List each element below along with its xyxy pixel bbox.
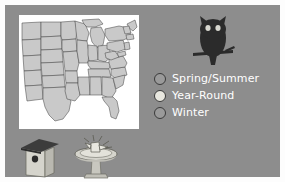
legend-swatch-spring-summer	[154, 73, 166, 85]
state-shape	[62, 39, 77, 52]
state-shape	[23, 55, 41, 71]
figure-panel: Spring/Summer Year-Round Winter	[5, 5, 280, 177]
state-shape	[22, 22, 41, 40]
legend-swatch-year-round	[154, 90, 166, 102]
state-tennessee	[88, 69, 111, 77]
birdbath-base	[84, 174, 108, 178]
legend-label-year-round: Year-Round	[172, 90, 234, 102]
birdhouse-icon	[17, 135, 63, 181]
state-shape	[22, 39, 41, 56]
legend-label-spring-summer: Spring/Summer	[172, 73, 259, 85]
legend-swatch-winter	[154, 107, 166, 119]
legend-item-spring-summer[interactable]: Spring/Summer	[154, 71, 279, 87]
state-shape	[42, 75, 65, 88]
state-kentucky	[88, 61, 111, 69]
state-shape	[25, 85, 43, 101]
owl-eye-right	[215, 25, 220, 31]
state-shape	[41, 62, 64, 76]
birdhouse-hole	[32, 156, 38, 163]
birdhouse-side	[45, 147, 54, 177]
state-indiana	[88, 45, 98, 61]
range-map-figure: Spring/Summer Year-Round Winter	[0, 0, 285, 182]
state-shape	[24, 70, 42, 86]
owl-eye-left	[205, 25, 210, 31]
owl-tail	[209, 55, 217, 65]
owl-head	[200, 19, 226, 39]
birdbath-bird-body	[91, 142, 100, 152]
us-range-map	[19, 15, 139, 129]
legend-item-winter[interactable]: Winter	[154, 105, 279, 121]
state-shape	[41, 22, 61, 37]
state-alabama	[90, 77, 102, 95]
state-shape	[41, 36, 62, 50]
state-newjersey	[124, 42, 130, 50]
state-illinois	[77, 40, 89, 63]
legend: Spring/Summer Year-Round Winter	[154, 71, 279, 122]
birdbath-icon	[69, 133, 123, 181]
state-shape	[65, 71, 78, 83]
state-mississippi	[78, 77, 90, 95]
legend-item-year-round[interactable]: Year-Round	[154, 88, 279, 104]
birdhouse-front	[26, 149, 45, 177]
state-newengland	[126, 34, 134, 40]
state-shape	[61, 21, 77, 40]
state-shape	[41, 49, 63, 63]
legend-label-winter: Winter	[172, 107, 209, 119]
state-shape	[63, 51, 79, 71]
owl-icon	[187, 13, 239, 71]
